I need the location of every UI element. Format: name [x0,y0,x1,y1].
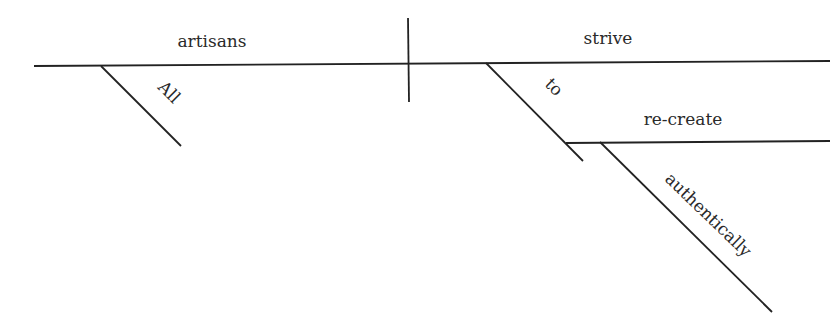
sentence-diagram: artisans strive All to re-create authent… [0,0,834,326]
adverb-word: authentically [661,168,756,261]
infinitive-verb-word: re-create [644,109,723,129]
subject-word: artisans [177,31,246,51]
adverb-line [600,142,772,312]
subject-verb-divider [408,18,409,102]
infinitive-marker-word: to [541,74,567,100]
infinitive-marker-line [486,63,583,161]
subject-modifier-word: All [153,76,184,107]
verb-word: strive [584,28,633,48]
infinitive-verb-line [566,141,830,143]
main-baseline [34,61,830,66]
